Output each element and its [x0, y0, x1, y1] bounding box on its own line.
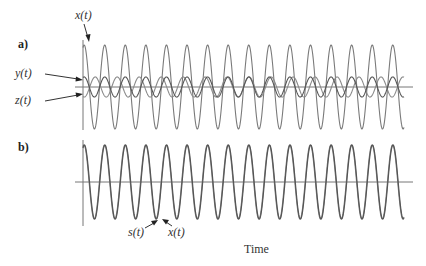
label-x-top: x(t): [74, 8, 92, 22]
arrow-z-top: [45, 95, 78, 101]
label-y-top: y(t): [14, 66, 32, 80]
x-axis-label: Time: [244, 242, 269, 256]
label-x-bottom: x(t): [167, 225, 185, 239]
panel-a: [75, 40, 413, 130]
arrow-s-bottom: [145, 223, 154, 228]
arrow-y-top: [45, 74, 78, 79]
panel-b-label: b): [18, 140, 29, 154]
panel-a-label: a): [18, 37, 28, 51]
arrowhead-x-top-icon: [86, 34, 91, 42]
arrowhead-y-top-icon: [76, 77, 84, 82]
label-z-top: z(t): [14, 93, 31, 107]
figure: a) b) x(t) y(t) z(t) s(t) x(t) Time: [0, 0, 426, 266]
arrowhead-s-bottom-icon: [151, 220, 158, 226]
arrowhead-z-top-icon: [76, 93, 84, 98]
label-s-bottom: s(t): [128, 225, 144, 239]
panel-b: [75, 140, 413, 226]
